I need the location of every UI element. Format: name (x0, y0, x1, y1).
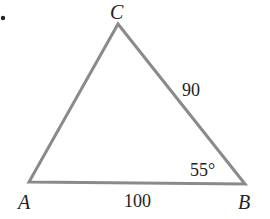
vertex-label-b: B (238, 191, 250, 213)
vertex-label-c: C (110, 1, 124, 23)
vertex-label-a: A (16, 191, 31, 213)
bullet-dot (1, 16, 5, 20)
angle-label-b: 55° (190, 160, 215, 180)
triangle-diagram: C A B 90 100 55° (0, 0, 270, 219)
side-label-ab: 100 (124, 191, 151, 211)
side-label-bc: 90 (182, 80, 200, 100)
triangle-figure: C A B 90 100 55° (0, 0, 270, 219)
